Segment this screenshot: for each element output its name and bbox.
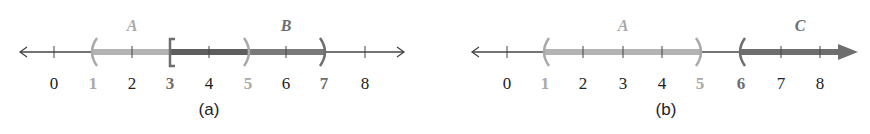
tick-label: 6 (737, 74, 746, 93)
tick-label: 8 (816, 74, 825, 93)
caption-b: (b) (656, 100, 677, 119)
tick-label: 1 (89, 74, 98, 93)
tick-label: 5 (244, 74, 253, 93)
number-line-figures: A B 0 1 2 3 4 5 6 7 8 (a) A C 0 1 2 (0, 0, 870, 134)
tick-label: 2 (579, 74, 588, 93)
arrow-right-icon (838, 44, 858, 60)
set-label-a: A (126, 17, 138, 34)
tick-label: 7 (777, 74, 786, 93)
tick-label: 4 (658, 74, 667, 93)
set-label-c: C (795, 17, 806, 34)
tick-label: 6 (282, 74, 291, 93)
set-label-b: B (280, 17, 292, 34)
caption-a: (a) (199, 100, 220, 119)
set-label-a: A (617, 17, 629, 34)
tick-label: 4 (205, 74, 214, 93)
tick-label: 0 (50, 74, 59, 93)
tick-label: 8 (361, 74, 370, 93)
tick-label: 7 (320, 74, 329, 93)
figure-b: A C 0 1 2 3 4 5 6 7 8 (b) (472, 17, 858, 119)
tick-label: 2 (128, 74, 137, 93)
tick-label: 3 (166, 74, 175, 93)
tick-label: 5 (696, 74, 705, 93)
figure-a: A B 0 1 2 3 4 5 6 7 8 (a) (20, 17, 404, 119)
interval-c (741, 49, 841, 55)
tick-label: 1 (541, 74, 550, 93)
tick-label: 0 (503, 74, 512, 93)
tick-label: 3 (619, 74, 628, 93)
